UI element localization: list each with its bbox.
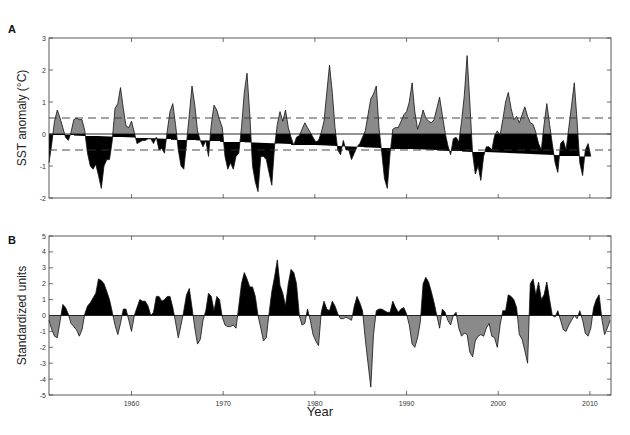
x-tick-label: 2010 xyxy=(582,400,598,407)
x-axis-title: Year xyxy=(307,404,334,419)
x-tick-label: 2000 xyxy=(490,400,506,407)
panel-b-area-fill xyxy=(49,260,611,387)
y-tick-label: -3 xyxy=(40,360,46,367)
y-tick-label: -2 xyxy=(40,344,46,351)
x-tick-label: 1970 xyxy=(215,400,231,407)
y-tick-label: -2 xyxy=(40,195,46,202)
y-tick-label: 5 xyxy=(42,233,46,240)
y-tick-label: 2 xyxy=(42,67,46,74)
x-tick-label: 1990 xyxy=(399,400,415,407)
panel-b: B -5-4-3-2-10123451960197019801990200020… xyxy=(8,233,611,420)
y-tick-label: -1 xyxy=(40,328,46,335)
figure: A -2-10123 SST anomaly (°C) B -5-4-3-2-1… xyxy=(0,0,630,435)
y-tick-label: 4 xyxy=(42,248,46,255)
x-tick-label: 1960 xyxy=(124,400,140,407)
panel-a: A -2-10123 SST anomaly (°C) xyxy=(8,23,611,202)
y-tick-label: 3 xyxy=(42,35,46,42)
panel-a-y-axis-title: SST anomaly (°C) xyxy=(15,70,29,167)
panel-b-y-axis-title: Standardized units xyxy=(15,266,29,365)
y-tick-label: 0 xyxy=(42,312,46,319)
y-tick-label: -4 xyxy=(40,376,46,383)
y-tick-label: 1 xyxy=(42,99,46,106)
panel-letter-a: A xyxy=(8,23,16,35)
y-tick-label: 2 xyxy=(42,280,46,287)
panel-letter-b: B xyxy=(8,234,16,246)
y-tick-label: -1 xyxy=(40,163,46,170)
y-tick-label: 1 xyxy=(42,296,46,303)
y-tick-label: -5 xyxy=(40,392,46,399)
y-tick-label: 0 xyxy=(42,131,46,138)
panel-a-area-fill xyxy=(49,56,611,192)
y-tick-label: 3 xyxy=(42,264,46,271)
